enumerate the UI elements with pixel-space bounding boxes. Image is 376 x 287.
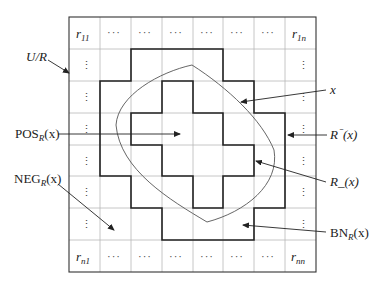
- svg-text:⋮: ⋮: [298, 155, 309, 167]
- svg-text:···: ···: [138, 250, 152, 262]
- svg-text:···: ···: [169, 26, 183, 38]
- svg-text:···: ···: [200, 26, 214, 38]
- negative-region-label: NEGR(x): [14, 171, 61, 188]
- boundary-region-label: BNR(x): [330, 225, 369, 242]
- lower-approximation-outline: [131, 81, 254, 208]
- svg-text:⋮: ⋮: [298, 59, 309, 71]
- svg-text:r11: r11: [76, 26, 89, 43]
- right-column-ellipses: ⋮ ⋮ ⋮ ⋮ ⋮ ⋮: [298, 59, 309, 230]
- svg-text:···: ···: [200, 250, 214, 262]
- cell-rn1: rn1: [76, 249, 90, 266]
- set-x-curve: [116, 65, 275, 222]
- boundary-region-arrow: [243, 225, 326, 232]
- svg-text:⋮: ⋮: [298, 218, 309, 230]
- svg-text:⋮: ⋮: [298, 186, 309, 198]
- lower-approx-label: R_(x): [329, 174, 359, 189]
- bottom-row-ellipses: ··· ··· ··· ··· ··· ···: [107, 250, 275, 262]
- cell-r1n: r1n: [292, 26, 307, 43]
- cell-r11: r11: [76, 26, 89, 43]
- universe-label: U/R: [26, 49, 47, 64]
- cell-rnn: rnn: [291, 249, 306, 266]
- set-x-label: x: [329, 82, 336, 97]
- svg-text:···: ···: [138, 26, 152, 38]
- svg-text:rn1: rn1: [76, 249, 90, 266]
- svg-text:⋮: ⋮: [81, 123, 92, 135]
- svg-text:⋮: ⋮: [81, 186, 92, 198]
- svg-text:⋮: ⋮: [81, 218, 92, 230]
- svg-text:···: ···: [107, 250, 121, 262]
- universe-arrow: [48, 60, 69, 73]
- svg-text:···: ···: [230, 26, 244, 38]
- svg-text:···: ···: [261, 26, 275, 38]
- svg-text:⋮: ⋮: [298, 123, 309, 135]
- rough-set-diagram: r11 r1n rn1 rnn ··· ··· ··· ··· ··· ··· …: [0, 0, 376, 287]
- svg-text:r1n: r1n: [292, 26, 307, 43]
- svg-text:···: ···: [230, 250, 244, 262]
- upper-approximation-outline: [100, 49, 285, 240]
- positive-region-label: POSR(x): [15, 126, 60, 143]
- svg-text:···: ···: [261, 250, 275, 262]
- svg-text:···: ···: [169, 250, 183, 262]
- diagram-canvas: r11 r1n rn1 rnn ··· ··· ··· ··· ··· ··· …: [0, 0, 376, 287]
- top-row-ellipses: ··· ··· ··· ··· ··· ···: [107, 26, 275, 38]
- upper-approx-label: R⁻(x): [329, 126, 357, 142]
- svg-text:···: ···: [107, 26, 121, 38]
- grid-lines: [69, 17, 316, 272]
- universe-frame: [69, 17, 316, 272]
- svg-text:⋮: ⋮: [81, 155, 92, 167]
- svg-text:rnn: rnn: [291, 249, 306, 266]
- svg-text:⋮: ⋮: [81, 59, 92, 71]
- svg-text:⋮: ⋮: [81, 91, 92, 103]
